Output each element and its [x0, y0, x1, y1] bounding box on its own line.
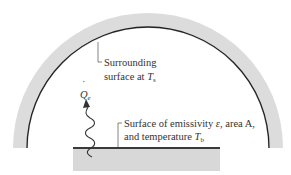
surface-label-line1: Surface of emissivity ε, area A,	[124, 118, 255, 129]
surrounding-label-line1: Surrounding	[104, 57, 157, 68]
heat-rate-label: Qe	[80, 89, 91, 102]
surface-leader-line	[118, 123, 122, 147]
surrounding-leader-line	[98, 42, 102, 62]
surface-label-line2: and temperature Tb	[124, 131, 204, 144]
emitting-plate	[73, 149, 220, 171]
heat-rate-dot: ˙	[82, 79, 86, 90]
surrounding-label-line2: surface at Ts	[104, 71, 156, 84]
radiation-exchange-diagram: Surrounding surface at Ts Surface of emi…	[0, 0, 291, 175]
